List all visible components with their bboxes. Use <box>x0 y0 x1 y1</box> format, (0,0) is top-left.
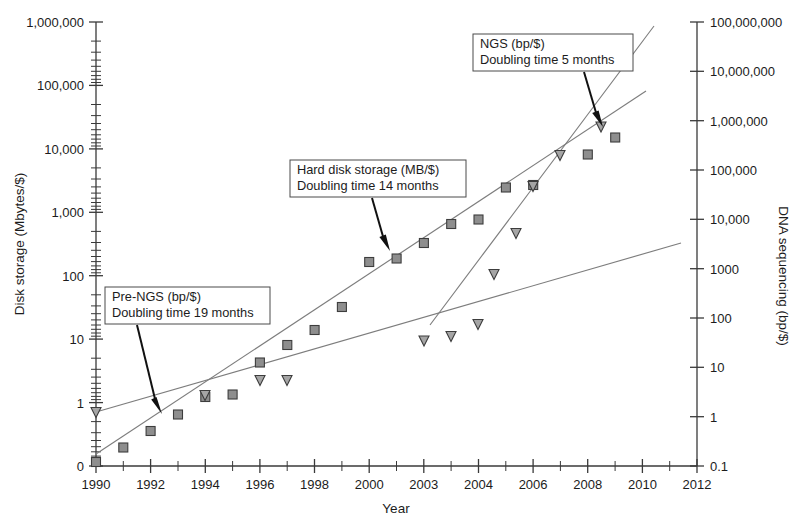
x-tick-label: 2000 <box>355 477 384 492</box>
y-right-tick-label: 10,000 <box>710 212 750 227</box>
annotation-pre-ngs-arrow <box>137 325 156 403</box>
y-left-tick-label: 0 <box>77 459 84 474</box>
y-left-tick-label: 10 <box>70 332 84 347</box>
y-right-tick-label: 100,000,000 <box>710 15 782 30</box>
y-right-tick-label: 1000 <box>710 262 739 277</box>
annotation-hard-disk-arrowhead <box>379 235 390 252</box>
y-left-tick-label: 1,000 <box>51 205 84 220</box>
x-tick-label: 2012 <box>683 477 712 492</box>
data-point-triangle <box>282 376 292 386</box>
data-point-triangle <box>511 229 521 239</box>
y-right-tick-label: 10,000,000 <box>710 64 775 79</box>
y-right-tick-label: 100,000 <box>710 163 757 178</box>
x-tick-label: 2003 <box>409 477 438 492</box>
data-point-triangle <box>473 320 483 330</box>
y-right-tick-label: 1 <box>710 410 717 425</box>
annotation-ngs: NGS (bp/$) Doubling time 5 months <box>473 34 633 127</box>
trend-lines <box>96 26 681 454</box>
x-tick-label: 2006 <box>519 477 548 492</box>
y-axis-left-title: Disk storage (Mbytes/$) <box>12 173 27 316</box>
data-point-square <box>419 239 428 248</box>
chart-figure: 1,000,000 100,000 10,000 1,000 100 10 1 … <box>0 0 795 528</box>
x-tick-label: 1996 <box>245 477 274 492</box>
data-point-square <box>283 341 292 350</box>
data-point-square <box>92 458 101 467</box>
data-point-square <box>146 427 155 436</box>
data-point-square <box>119 443 128 452</box>
y-left-tick-label: 100,000 <box>37 78 84 93</box>
annotation-ngs-line2: Doubling time 5 months <box>480 52 614 67</box>
y-right-tick-label: 100 <box>710 311 732 326</box>
annotation-pre-ngs-line1: Pre-NGS (bp/$) <box>112 289 201 304</box>
y-left-tick-label: 100 <box>62 269 84 284</box>
data-point-triangle <box>91 408 101 418</box>
y-left-tick-label: 10,000 <box>44 142 84 157</box>
x-tick-label: 1990 <box>82 477 111 492</box>
trend-line-hard-disk <box>96 91 646 454</box>
data-point-square <box>174 410 183 419</box>
y-axis-right-labels: 100,000,000 10,000,000 1,000,000 100,000… <box>710 15 782 474</box>
data-point-square <box>310 326 319 335</box>
annotation-hard-disk-line1: Hard disk storage (MB/$) <box>297 162 439 177</box>
trend-line-pre-ngs <box>96 243 681 412</box>
data-point-square <box>337 303 346 312</box>
y-axis-left-labels: 1,000,000 100,000 10,000 1,000 100 10 1 … <box>26 15 84 474</box>
data-point-square <box>255 358 264 367</box>
data-point-square <box>474 215 483 224</box>
x-axis-title: Year <box>382 501 410 516</box>
data-point-square <box>392 254 401 263</box>
annotation-hard-disk: Hard disk storage (MB/$) Doubling time 1… <box>290 160 466 251</box>
data-point-square <box>447 220 456 229</box>
data-point-triangle <box>419 336 429 346</box>
annotation-pre-ngs-line2: Doubling time 19 months <box>112 305 254 320</box>
x-axis-labels: 1990 1992 1994 1996 1998 2000 2003 2004 … <box>82 477 712 492</box>
x-tick-label: 2010 <box>628 477 657 492</box>
annotation-ngs-arrow <box>584 72 597 116</box>
data-point-square <box>611 133 620 142</box>
data-point-square <box>583 150 592 159</box>
data-point-square <box>501 183 510 192</box>
x-tick-label: 1994 <box>191 477 220 492</box>
y-axis-right-title: DNA sequencing (bp/$) <box>776 206 791 346</box>
y-right-tick-label: 1,000,000 <box>710 114 768 129</box>
y-left-tick-label: 1 <box>77 396 84 411</box>
data-point-triangle <box>489 270 499 280</box>
annotation-pre-ngs-arrowhead <box>151 397 162 414</box>
data-point-triangle <box>446 332 456 342</box>
data-point-triangle <box>255 376 265 386</box>
chart-canvas: 1,000,000 100,000 10,000 1,000 100 10 1 … <box>0 0 795 528</box>
x-tick-label: 1992 <box>136 477 165 492</box>
annotation-hard-disk-line2: Doubling time 14 months <box>297 178 439 193</box>
annotation-hard-disk-arrow <box>372 198 384 240</box>
annotation-ngs-line1: NGS (bp/$) <box>480 36 545 51</box>
data-point-square <box>365 258 374 267</box>
data-point-square <box>228 390 237 399</box>
y-right-tick-label: 0.1 <box>710 459 728 474</box>
x-tick-label: 2004 <box>464 477 493 492</box>
x-tick-label: 2008 <box>573 477 602 492</box>
annotation-pre-ngs: Pre-NGS (bp/$) Doubling time 19 months <box>105 287 270 414</box>
x-tick-label: 1998 <box>300 477 329 492</box>
y-left-tick-label: 1,000,000 <box>26 15 84 30</box>
y-right-tick-label: 10 <box>710 360 724 375</box>
